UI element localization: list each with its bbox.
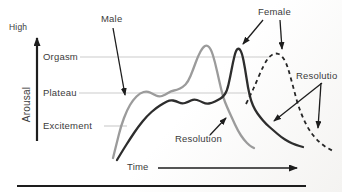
sexual-response-cycle-diagram: High Arousal Orgasm Plateau Excitement M…	[0, 0, 342, 192]
resolution-female-arrow-solid	[274, 83, 322, 121]
male-curve-label: Male	[101, 13, 122, 24]
time-axis-label: Time	[127, 161, 149, 172]
orgasm-level-label: Orgasm	[43, 51, 78, 62]
resolution-male-label: Resolution	[175, 133, 222, 144]
plateau-level-label: Plateau	[43, 87, 77, 98]
resolution-female-label: Resolutio	[296, 70, 337, 81]
high-axis-label: High	[9, 22, 27, 32]
excitement-level-label: Excitement	[43, 120, 92, 131]
female-curve-label: Female	[258, 6, 291, 17]
female-label-arrow-dashed-peak	[280, 20, 282, 49]
resolution-female-arrow-dashed	[318, 83, 321, 128]
arousal-axis-label: Arousal	[21, 75, 32, 135]
male-label-arrow	[113, 28, 125, 95]
female-label-arrow-solid-peak	[243, 20, 263, 44]
